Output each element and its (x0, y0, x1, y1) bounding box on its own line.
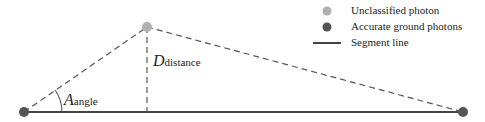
legend-label-ground: Accurate ground photons (351, 20, 462, 32)
ground-photon-left (19, 107, 29, 117)
legend-label-unclassified: Unclassified photon (351, 4, 439, 16)
distance-label: Ddistance (153, 52, 201, 70)
angle-arc (55, 90, 62, 112)
ground-photon-right (458, 107, 468, 117)
legend-unclassified-marker-icon (323, 7, 332, 16)
unclassified-photon (142, 22, 152, 32)
legend-ground-marker-icon (323, 23, 332, 32)
photon-geometry-diagram: Aangle Ddistance Unclassified photon Acc… (0, 0, 485, 122)
legend-label-segment: Segment line (351, 36, 409, 48)
angle-label: Aangle (64, 91, 98, 109)
